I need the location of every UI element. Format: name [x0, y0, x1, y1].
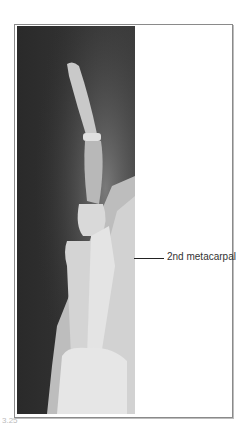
metacarpal-label: 2nd metacarpal — [167, 251, 236, 262]
xray-image — [17, 26, 135, 414]
figure-caption-fragment: 3.25 — [2, 416, 18, 424]
label-leader-line — [134, 258, 164, 259]
